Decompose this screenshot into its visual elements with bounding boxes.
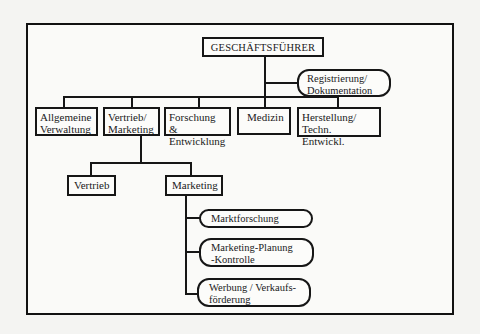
connector-drop-herstellung bbox=[337, 96, 339, 107]
node-forschung-entwicklung: Forschung & Entwicklung bbox=[164, 107, 231, 136]
connector-drop-medizin bbox=[264, 96, 266, 107]
node-registrierung-dokumentation: Registrierung/ Dokumentation bbox=[297, 69, 391, 97]
connector-department-bus bbox=[63, 96, 339, 98]
node-vertrieb-marketing: Vertrieb/ Marketing bbox=[103, 107, 160, 136]
connector-vm-bus bbox=[90, 162, 192, 164]
connector-drop-vertrieb bbox=[90, 162, 92, 175]
connector-marketing-trunk bbox=[185, 195, 187, 295]
connector-staff bbox=[264, 82, 298, 84]
node-allgemeine-verwaltung: Allgemeine Verwaltung bbox=[35, 107, 98, 136]
connector-marketing-planung bbox=[185, 251, 200, 253]
node-marketing: Marketing bbox=[165, 175, 223, 196]
node-vertrieb: Vertrieb bbox=[67, 175, 116, 196]
node-marketing-planung-kontrolle: Marketing-Planung -Kontrolle bbox=[199, 238, 314, 267]
connector-drop-marketing bbox=[190, 162, 192, 175]
connector-drop-verwaltung bbox=[63, 96, 65, 107]
connector-marktforschung bbox=[185, 217, 200, 219]
node-medizin: Medizin bbox=[237, 107, 291, 135]
node-werbung-verkaufsfoerderung: Werbung / Verkaufs- förderung bbox=[197, 278, 311, 307]
connector-root-trunk bbox=[264, 56, 266, 98]
connector-vm-trunk bbox=[140, 136, 142, 164]
node-herstellung-techn-entwicklung: Herstellung/ Techn. Entwickl. bbox=[297, 107, 381, 137]
node-marktforschung: Marktforschung bbox=[199, 209, 313, 228]
node-geschaeftsfuehrer: GESCHÄFTSFÜHRER bbox=[202, 37, 324, 57]
connector-drop-forschung bbox=[198, 96, 200, 107]
connector-drop-vertrieb-marketing bbox=[131, 96, 133, 107]
